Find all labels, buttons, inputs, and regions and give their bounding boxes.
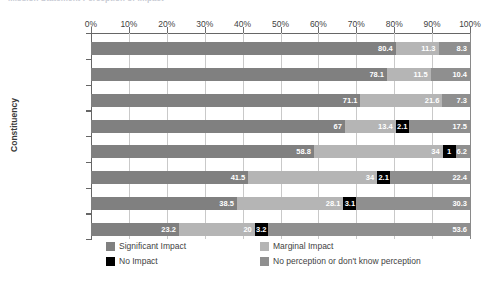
table-row: 78.111.510.4	[91, 68, 470, 81]
bar-segment: 1	[443, 145, 456, 158]
legend-swatch-icon	[106, 257, 115, 266]
bar-value-label: 28.1	[326, 199, 341, 208]
table-row: 71.121.67.3	[91, 94, 470, 107]
bar-value-label: 17.5	[452, 122, 467, 131]
bar-value-label: 11.5	[413, 70, 427, 79]
bar-value-label: 78.1	[369, 70, 384, 79]
bar-segment: 34	[248, 171, 377, 184]
bar-segment: 13.4	[345, 120, 396, 133]
plot-area: 0%10%20%30%40%50%60%70%80%90%100% Admini…	[91, 33, 470, 239]
legend-swatch-icon	[260, 257, 269, 266]
legend-row: Significant Impact Marginal Impact	[106, 241, 436, 256]
bar-segment: 71.1	[91, 94, 360, 107]
table-row: 80.411.38.3	[91, 42, 470, 55]
chart-legend: Significant Impact Marginal Impact No Im…	[106, 241, 436, 271]
bar-segment: 34	[314, 145, 443, 158]
bar-segment: 17.5	[404, 120, 470, 133]
bar-value-label: 2.1	[397, 122, 407, 131]
x-axis-tick-mark	[356, 27, 357, 33]
bar-segment: 2.1	[396, 120, 409, 133]
gridline	[470, 33, 471, 239]
bar-value-label: 3.2	[256, 225, 266, 234]
x-axis-tick-mark	[205, 27, 206, 33]
x-axis-tick-mark	[394, 27, 395, 33]
bar-segment: 11.5	[387, 68, 431, 81]
bar-value-label: 11.3	[421, 44, 435, 53]
legend-row: No Impact No perception or don't know pe…	[106, 256, 436, 271]
table-row: 6713.42.117.5	[91, 120, 470, 133]
bar-segment: 38.5	[91, 197, 237, 210]
bar-value-label: 53.6	[452, 225, 467, 234]
y-axis-tick-mark	[86, 162, 92, 163]
bar-segment: 10.4	[431, 68, 470, 81]
y-axis-tick-mark	[86, 59, 92, 60]
y-axis-tick-mark	[86, 188, 92, 189]
bar-segment: 20	[179, 223, 255, 236]
bar-value-label: 71.1	[343, 96, 358, 105]
bar-segment: 28.1	[237, 197, 343, 210]
table-row: 41.5342.122.4	[91, 171, 470, 184]
x-axis-tick-mark	[243, 27, 244, 33]
x-axis-tick-mark	[129, 27, 130, 33]
x-axis-tick-mark	[470, 27, 471, 33]
legend-item-no-perception: No perception or don't know perception	[260, 256, 421, 266]
bar-segment: 53.6	[267, 223, 470, 236]
table-row: 38.528.13.130.3	[91, 197, 470, 210]
bar-segment: 22.4	[385, 171, 470, 184]
bar-segment: 23.2	[91, 223, 179, 236]
bar-value-label: 34	[366, 173, 374, 182]
bar-value-label: 58.8	[296, 147, 311, 156]
bar-segment: 58.8	[91, 145, 314, 158]
bar-segment: 2.1	[377, 171, 390, 184]
y-axis-tick-mark	[86, 85, 92, 86]
y-axis-tick-mark	[86, 239, 92, 240]
legend-item-marginal-impact: Marginal Impact	[260, 241, 333, 251]
bar-value-label: 34	[431, 147, 439, 156]
bar-value-label: 67	[334, 122, 342, 131]
stacked-bar-chart: Mission Statement Perception of Impact C…	[0, 0, 485, 282]
bar-value-label: 6.2	[457, 147, 467, 156]
legend-swatch-icon	[106, 242, 115, 251]
bar-segment: 41.5	[91, 171, 248, 184]
bar-segment: 80.4	[91, 42, 396, 55]
y-axis-tick-mark	[86, 110, 92, 111]
legend-label: Marginal Impact	[273, 241, 333, 251]
bar-value-label: 41.5	[231, 173, 246, 182]
y-axis-title: Constituency	[9, 65, 19, 185]
bar-segment: 30.3	[355, 197, 470, 210]
bar-value-label: 13.4	[378, 122, 393, 131]
bar-segment: 8.3	[439, 42, 470, 55]
bar-value-label: 20	[243, 225, 251, 234]
bar-segment: 3.1	[343, 197, 356, 210]
legend-label: No Impact	[119, 256, 158, 266]
x-axis-tick-mark	[281, 27, 282, 33]
bar-segment: 78.1	[91, 68, 387, 81]
legend-item-significant-impact: Significant Impact	[106, 241, 186, 251]
x-axis-tick-mark	[167, 27, 168, 33]
chart-title: Mission Statement Perception of Impact	[8, 0, 164, 3]
bar-segment: 21.6	[360, 94, 442, 107]
bar-value-label: 8.3	[457, 44, 467, 53]
bar-value-label: 7.3	[457, 96, 467, 105]
legend-swatch-icon	[260, 242, 269, 251]
bar-value-label: 21.6	[425, 96, 440, 105]
bar-value-label: 30.3	[452, 199, 467, 208]
x-axis-tick-mark	[318, 27, 319, 33]
table-row: 58.83416.2	[91, 145, 470, 158]
y-axis-tick-mark	[86, 33, 92, 34]
bar-segment: 11.3	[396, 42, 439, 55]
bar-value-label: 10.4	[452, 70, 467, 79]
bar-value-label: 1	[447, 147, 451, 156]
bar-segment: 67	[91, 120, 345, 133]
bar-value-label: 3.1	[345, 199, 355, 208]
x-axis-tick-mark	[432, 27, 433, 33]
bar-value-label: 2.1	[378, 173, 388, 182]
bar-segment: 3.2	[255, 223, 268, 236]
legend-label: Significant Impact	[119, 241, 186, 251]
bar-segment: 7.3	[442, 94, 470, 107]
bar-value-label: 38.5	[219, 199, 234, 208]
y-axis-tick-mark	[86, 213, 92, 214]
y-axis-tick-mark	[86, 136, 92, 137]
bar-value-label: 80.4	[378, 44, 393, 53]
table-row: 23.2203.253.6	[91, 223, 470, 236]
